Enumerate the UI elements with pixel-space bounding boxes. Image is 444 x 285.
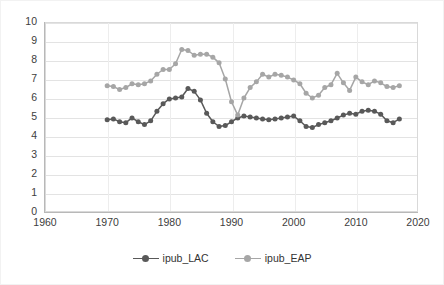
data-point [297, 118, 302, 123]
data-point [148, 78, 153, 83]
data-point [185, 86, 190, 91]
data-point [266, 75, 271, 80]
series-layer [0, 0, 444, 285]
data-point [384, 84, 389, 89]
legend-marker-icon [235, 253, 261, 263]
data-point [204, 111, 209, 116]
data-point [154, 109, 159, 114]
legend-entry-ipub_EAP[interactable]: ipub_EAP [235, 252, 312, 264]
data-point [335, 71, 340, 76]
data-point [322, 85, 327, 90]
data-point [173, 61, 178, 66]
legend-marker-icon [133, 253, 159, 263]
data-point [204, 52, 209, 57]
data-point [353, 75, 358, 80]
data-point [241, 96, 246, 101]
data-point [322, 120, 327, 125]
series-ipub_LAC [105, 86, 402, 130]
data-point [179, 95, 184, 100]
data-point [360, 79, 365, 84]
data-point [192, 53, 197, 58]
data-point [391, 85, 396, 90]
data-point [254, 79, 259, 84]
data-point [310, 96, 315, 101]
data-point [304, 124, 309, 129]
chart-container: 012345678910 196019701980199020002010202… [0, 0, 444, 285]
data-point [316, 122, 321, 127]
data-point [291, 114, 296, 119]
data-point [316, 93, 321, 98]
data-point [397, 116, 402, 121]
data-point [372, 109, 377, 114]
data-point [154, 72, 159, 77]
data-point [241, 114, 246, 119]
series-ipub_EAP [105, 47, 402, 118]
data-point [185, 48, 190, 53]
data-point [372, 78, 377, 83]
data-point [260, 72, 265, 77]
data-point [254, 115, 259, 120]
legend-label: ipub_LAC [163, 252, 209, 264]
data-point [117, 119, 122, 124]
data-point [279, 73, 284, 78]
data-point [285, 75, 290, 80]
data-point [161, 101, 166, 106]
data-point [341, 113, 346, 118]
data-point [105, 83, 110, 88]
data-point [136, 82, 141, 87]
data-point [130, 81, 135, 86]
data-point [391, 120, 396, 125]
data-point [304, 91, 309, 96]
data-point [210, 55, 215, 60]
data-point [235, 113, 240, 118]
data-point [210, 119, 215, 124]
data-point [136, 119, 141, 124]
data-point [167, 96, 172, 101]
data-point [123, 85, 128, 90]
data-point [260, 116, 265, 121]
chart-legend: ipub_LACipub_EAP [0, 248, 444, 268]
data-point [266, 117, 271, 122]
data-point [335, 115, 340, 120]
data-point [161, 67, 166, 72]
data-point [366, 108, 371, 113]
data-point [310, 125, 315, 130]
data-point [223, 123, 228, 128]
data-point [366, 82, 371, 87]
data-point [167, 67, 172, 72]
data-point [229, 99, 234, 104]
data-point [198, 52, 203, 57]
data-point [148, 118, 153, 123]
legend-entry-ipub_LAC[interactable]: ipub_LAC [133, 252, 209, 264]
data-point [397, 83, 402, 88]
data-point [117, 87, 122, 92]
data-point [111, 84, 116, 89]
data-point [217, 60, 222, 65]
data-point [173, 96, 178, 101]
data-point [179, 47, 184, 52]
data-point [248, 115, 253, 120]
data-point [142, 81, 147, 86]
data-point [347, 88, 352, 93]
data-point [273, 72, 278, 77]
data-point [347, 111, 352, 116]
data-point [360, 109, 365, 114]
data-point [378, 112, 383, 117]
data-point [285, 115, 290, 120]
data-point [142, 122, 147, 127]
data-point [297, 81, 302, 86]
legend-label: ipub_EAP [265, 252, 312, 264]
data-point [123, 120, 128, 125]
data-point [273, 116, 278, 121]
data-point [384, 118, 389, 123]
data-point [378, 80, 383, 85]
data-point [279, 115, 284, 120]
data-point [111, 116, 116, 121]
data-point [291, 77, 296, 82]
data-point [248, 85, 253, 90]
data-point [328, 82, 333, 87]
data-point [229, 119, 234, 124]
data-point [341, 80, 346, 85]
data-point [130, 115, 135, 120]
data-point [353, 112, 358, 117]
